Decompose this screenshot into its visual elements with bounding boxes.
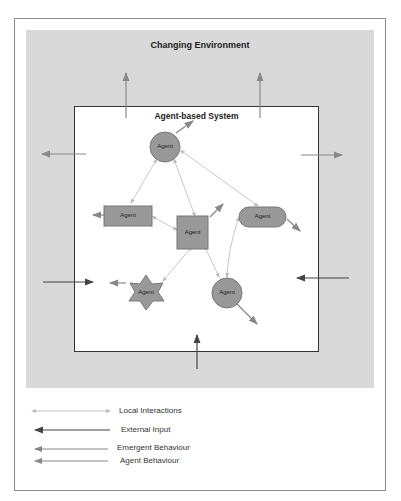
agent-label: Agent xyxy=(212,289,242,295)
legend-emergent-behaviour: Emergent Behaviour xyxy=(117,443,190,452)
agent-label: Agent xyxy=(150,143,180,149)
agents xyxy=(104,132,286,310)
external-input-arrows xyxy=(43,278,349,369)
legend-external-input: External Input xyxy=(121,425,170,434)
agent-label: Agent xyxy=(104,212,152,218)
legend-arrows xyxy=(35,411,110,461)
agent-label: Agent xyxy=(239,213,286,219)
legend-local-interactions: Local Interactions xyxy=(119,406,182,415)
diagram-graphics xyxy=(0,0,401,501)
emergent-arrows xyxy=(42,73,342,155)
agent-label: Agent xyxy=(131,289,161,295)
agent-label: Agent xyxy=(177,229,208,235)
legend-agent-behaviour: Agent Behaviour xyxy=(120,456,179,465)
